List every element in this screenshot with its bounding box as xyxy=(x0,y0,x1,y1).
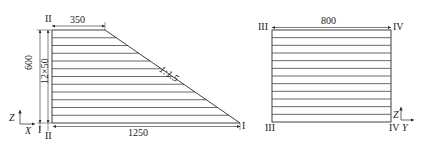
section-label-IV-top: IV xyxy=(393,22,404,32)
section-label-II-bottom: II xyxy=(45,131,52,141)
axis-label-x: X xyxy=(25,126,31,136)
axis-label-z-left: Z xyxy=(9,113,15,123)
section-label-III-top: III xyxy=(258,22,268,32)
section-label-III-bottom: III xyxy=(265,123,275,133)
diagram-canvas xyxy=(0,0,429,146)
dim-label-800: 800 xyxy=(321,16,336,26)
right-cross-section xyxy=(272,28,414,123)
dim-label-350: 350 xyxy=(70,15,85,25)
section-label-I: I xyxy=(242,121,245,131)
dim-label-1250: 1250 xyxy=(128,128,148,138)
axis-origin-marker-I: I xyxy=(38,125,41,135)
axis-label-y: Y xyxy=(402,123,408,133)
section-label-IV-bottom: IV xyxy=(389,123,400,133)
layer-lines xyxy=(272,38,391,115)
axis-label-z-right: Z xyxy=(393,110,399,120)
dim-label-12x50: 12×50 xyxy=(40,58,50,84)
layer-lines xyxy=(52,38,229,116)
left-cross-section xyxy=(20,22,240,131)
section-label-II-top: II xyxy=(45,14,52,24)
dim-label-600: 600 xyxy=(24,55,34,70)
